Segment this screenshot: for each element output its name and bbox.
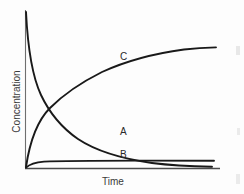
curve-label-b: B	[120, 149, 127, 160]
scan-artifact	[237, 128, 240, 135]
concentration-vs-time-chart: C A B Time Concentration	[0, 0, 244, 194]
scan-artifact	[236, 46, 240, 55]
curve-label-a: A	[120, 126, 127, 137]
plot-area	[0, 0, 244, 194]
curve-a-decay	[26, 12, 212, 167]
y-axis-label: Concentration	[11, 54, 22, 150]
scan-artifact	[236, 174, 240, 184]
curve-label-c: C	[120, 51, 127, 62]
x-axis-label: Time	[102, 176, 124, 187]
